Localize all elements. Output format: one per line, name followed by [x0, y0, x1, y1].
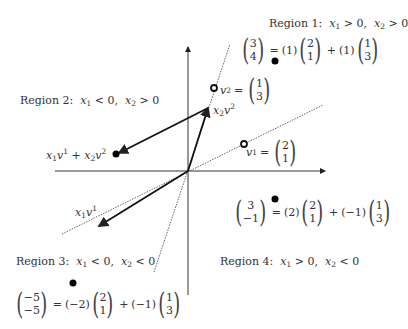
x1v1-label: x1v1: [75, 205, 97, 220]
v2-point-icon: [211, 85, 217, 91]
region3-equation: (−5−5) = (−2) (21) + (−1) (13): [14, 289, 183, 319]
region3-label: Region 3: x1 < 0, x2 < 0: [16, 256, 155, 269]
region4-equation: (3−1) = (2) (21) + (−1) (13): [233, 197, 392, 227]
vector-sum: [119, 108, 208, 153]
sum-point-icon: [113, 151, 120, 158]
v2-definition: v2 = (13): [220, 75, 273, 105]
region1-equation: (34) = (1) (21) + (1) (13): [240, 35, 381, 65]
sum-label: x1v1 + x2v2: [46, 148, 106, 163]
v1-definition: v1 = (21): [246, 137, 299, 167]
region4-label: Region 4: x1 > 0, x2 < 0: [220, 256, 359, 269]
region2-label: Region 2: x1 < 0, x2 > 0: [20, 95, 159, 108]
x2v2-label: x2v2: [213, 103, 235, 118]
region3-point-icon: [70, 280, 77, 287]
vector-x1v1: [99, 171, 188, 226]
region1-label: Region 1: x1 > 0, x2 > 0: [269, 18, 408, 31]
